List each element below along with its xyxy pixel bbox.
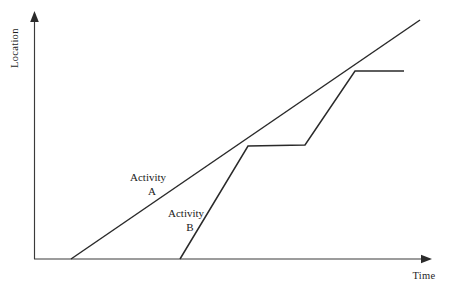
series-line-activity-b bbox=[180, 71, 404, 259]
y-axis-arrowhead bbox=[30, 11, 39, 22]
x-axis-title: Time bbox=[413, 270, 436, 281]
chart-canvas: Location Time Activity A Activity B bbox=[0, 0, 468, 288]
series-line-activity-a bbox=[71, 20, 420, 259]
y-axis-title: Location bbox=[9, 28, 20, 68]
activity-b-label-line1: Activity bbox=[168, 207, 205, 219]
activity-a-label-line2: A bbox=[148, 185, 156, 197]
time-location-chart: Location Time Activity A Activity B bbox=[0, 0, 468, 288]
activity-a-label-line1: Activity bbox=[130, 171, 167, 183]
activity-b-label-line2: B bbox=[186, 221, 193, 233]
x-axis-arrowhead bbox=[421, 255, 432, 263]
